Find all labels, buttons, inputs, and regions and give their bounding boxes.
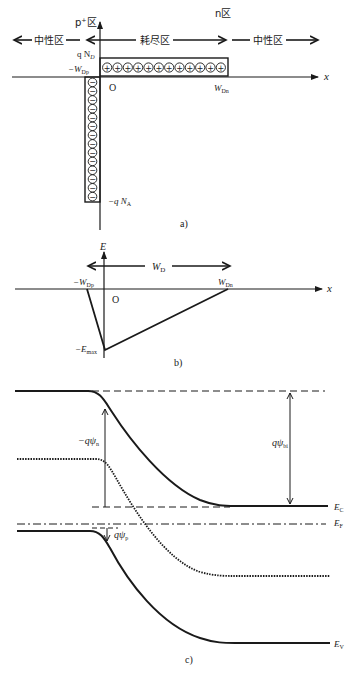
svg-text:+: + [124,64,131,73]
psi-p-label: qψp [114,529,128,541]
negative-ion-icon: − [88,78,97,87]
svg-text:−: − [89,87,96,96]
field-origin-label: O [112,294,119,305]
negative-ion-icon: − [88,175,97,184]
panel-b-caption: b) [174,357,182,369]
svg-text:+: + [176,64,183,73]
positive-ion-icon: + [144,63,153,73]
negative-ion-icon: − [88,140,97,149]
positive-charges: ++++++++++++ [103,63,226,73]
svg-text:−: − [89,149,96,158]
origin-label: O [109,82,116,93]
x-axis-label: x [323,70,329,82]
field-triangle [87,289,228,350]
n-region-label: n区 [215,8,231,19]
positive-ion-icon: + [175,63,184,73]
negative-ion-icon: − [88,184,97,193]
psi-bi-label: qψbi [272,437,288,449]
svg-text:−: − [89,184,96,193]
svg-text:−: − [89,114,96,123]
svg-text:+: + [114,64,121,73]
svg-text:−: − [89,157,96,166]
field-y-label: E [99,241,106,252]
svg-text:−: − [89,140,96,149]
negative-ion-icon: − [88,113,97,122]
svg-text:−: − [89,105,96,114]
ec-label: EC [333,502,344,513]
negative-charges: −−−−−−−−−−−−−− [88,78,97,202]
neutral-right-label: 中性区 [253,34,283,46]
positive-ion-icon: + [134,63,143,73]
psi-n-label: −qψn [78,435,99,447]
svg-text:−: − [89,166,96,175]
negative-ion-icon: − [88,192,97,201]
negative-ion-icon: − [88,131,97,140]
svg-text:+: + [186,64,193,73]
p-region-label: p⁺区 [75,17,97,28]
panel-a-caption: a) [180,218,188,230]
svg-text:+: + [145,64,152,73]
qnd-label: q ND [77,49,95,60]
negative-ion-icon: − [88,96,97,105]
positive-ion-icon: + [123,63,132,73]
positive-ion-icon: + [103,63,112,73]
negative-ion-icon: − [88,122,97,131]
ev-label: EV [333,639,345,650]
conduction-band-ec [15,391,328,506]
field-wdp-label: −WDp [73,277,94,288]
wd-label: WD [152,261,165,274]
panel-c-energy-band: −qψn qψbi qψp EC EF EV c) [15,391,345,666]
svg-text:+: + [207,64,214,73]
positive-ion-icon: + [216,63,225,73]
positive-ion-icon: + [206,63,215,73]
negative-ion-icon: − [88,148,97,157]
positive-ion-icon: + [196,63,205,73]
depletion-label: 耗尽区 [140,35,170,46]
positive-ion-icon: + [165,63,174,73]
wdp-label: −WDp [68,64,89,75]
svg-text:−: − [89,131,96,140]
negative-ion-icon: − [88,87,97,96]
svg-text:+: + [217,64,224,73]
svg-text:−: − [89,175,96,184]
qna-label: −q NA [108,196,132,207]
field-x-label: x [326,282,332,294]
negative-ion-icon: − [88,166,97,175]
svg-text:+: + [135,64,142,73]
panel-a-charge-distribution: x p⁺区 n区 中性区 耗尽区 中性区 q ND −WDp +++++++++… [12,8,329,230]
field-wdn-label: WDn [218,277,233,288]
svg-text:+: + [155,64,162,73]
valence-band-ev [17,531,330,643]
positive-ion-icon: + [185,63,194,73]
positive-ion-icon: + [154,63,163,73]
panel-b-electric-field: E x WD −WDp WDn O −Emax b) [15,241,332,369]
svg-text:+: + [166,64,173,73]
svg-text:−: − [89,96,96,105]
neutral-left-label: 中性区 [34,34,64,46]
ef-label: EF [333,518,344,529]
intrinsic-level-ei [17,459,330,576]
svg-text:−: − [89,122,96,131]
panel-c-caption: c) [185,654,193,666]
positive-ion-icon: + [113,63,122,73]
svg-text:+: + [104,64,111,73]
wdn-label: WDn [214,83,229,94]
negative-ion-icon: − [88,157,97,166]
svg-text:+: + [197,64,204,73]
svg-text:−: − [89,193,96,202]
pn-junction-diagram: x p⁺区 n区 中性区 耗尽区 中性区 q ND −WDp +++++++++… [0,0,355,673]
emax-label: −Emax [75,344,97,355]
negative-ion-icon: − [88,104,97,113]
svg-text:−: − [89,78,96,87]
